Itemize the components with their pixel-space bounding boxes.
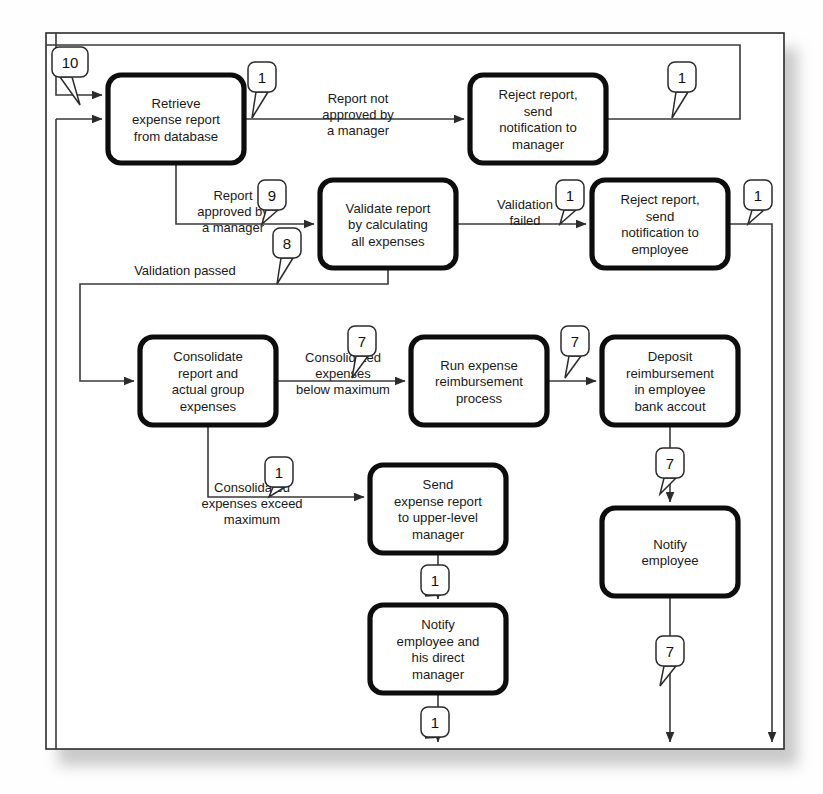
- callout-number: 1: [566, 187, 574, 204]
- edge-label-report-not-approved: Report notapproved bya manager: [322, 91, 394, 138]
- callout-number: 10: [62, 54, 79, 71]
- process-box-notify-both[interactable]: Notifyemployee andhis directmanager: [370, 605, 506, 693]
- callout-number: 7: [666, 455, 674, 472]
- flowchart-svg: Retrieveexpense reportfrom databaseRejec…: [0, 0, 823, 794]
- process-box-deposit[interactable]: Depositreimbursementin employeebank acco…: [602, 337, 738, 425]
- process-box-retrieve[interactable]: Retrieveexpense reportfrom database: [108, 75, 244, 163]
- process-box-label: Reject report,sendnotification toemploye…: [620, 192, 699, 257]
- edge-label-validation-passed: Validation passed: [134, 263, 236, 278]
- callout-number: 1: [678, 69, 686, 86]
- callout-number: 1: [258, 69, 266, 86]
- callout-c-1-notifyboth[interactable]: 1: [421, 707, 449, 738]
- process-box-shape: [602, 508, 738, 596]
- process-box-reject-mgr[interactable]: Reject report,sendnotification tomanager: [470, 75, 606, 163]
- process-box-send-upper[interactable]: Sendexpense reportto upper-levelmanager: [370, 465, 506, 553]
- callout-number: 9: [268, 187, 276, 204]
- callout-number: 8: [283, 235, 291, 252]
- process-box-validate[interactable]: Validate reportby calculatingall expense…: [320, 180, 456, 268]
- callout-number: 1: [431, 572, 439, 589]
- process-box-consolidate[interactable]: Consolidatereport andactual groupexpense…: [140, 337, 276, 425]
- callout-number: 1: [275, 464, 283, 481]
- callout-number: 7: [358, 333, 366, 350]
- process-box-label: Consolidatereport andactual groupexpense…: [172, 349, 245, 414]
- process-box-reject-emp[interactable]: Reject report,sendnotification toemploye…: [592, 180, 728, 268]
- diagram-canvas: Retrieveexpense reportfrom databaseRejec…: [0, 0, 823, 794]
- callout-number: 1: [431, 714, 439, 731]
- process-box-label: Validate reportby calculatingall expense…: [346, 201, 431, 249]
- callout-c-1-sendupper[interactable]: 1: [421, 565, 449, 596]
- process-box-notify-emp[interactable]: Notifyemployee: [602, 508, 738, 596]
- callout-number: 7: [666, 643, 674, 660]
- callout-number: 1: [754, 187, 762, 204]
- callout-number: 7: [571, 333, 579, 350]
- process-box-run-reimb[interactable]: Run expensereimbursementprocess: [411, 337, 547, 425]
